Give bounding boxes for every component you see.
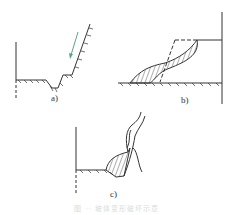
arrow-head-icon [69,53,73,59]
figure-drawing [0,0,233,215]
panel-c-label: c) [110,189,117,199]
figure-caption: 图 ·· 坡体变形破坏示意 [0,203,233,213]
panel-c-drawing [76,112,145,193]
panel-a-drawing [16,24,93,100]
movement-arrow [71,32,78,55]
panel-a-label: a) [51,93,58,103]
panel-b-drawing [118,12,222,104]
panel-b-label: b) [181,95,189,105]
